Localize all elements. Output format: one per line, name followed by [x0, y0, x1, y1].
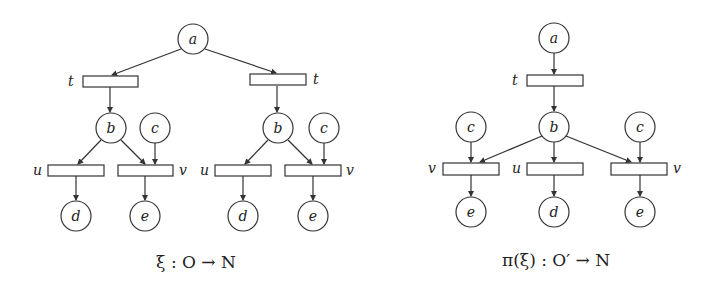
transition-u1 — [48, 165, 104, 176]
place-label: d — [550, 204, 559, 220]
place-label: e — [636, 204, 644, 220]
places-left: a b c b c d e d e — [61, 24, 339, 231]
transition-label: u — [200, 162, 209, 178]
place-label: e — [467, 204, 475, 220]
place-label: e — [309, 208, 317, 224]
arc-b1-u1 — [78, 140, 101, 164]
occurrence-net-left: t t u v u v a b c b c d e — [33, 24, 354, 272]
transition-v1 — [443, 163, 499, 175]
places-right: a c b c e d e — [456, 23, 655, 227]
occurrence-net-right: t v u v a c b c e d e π(ξ) : O′ → N — [428, 23, 681, 270]
caption-right: π(ξ) : O′ → N — [502, 250, 610, 270]
transition-label: t — [313, 71, 319, 87]
place-label: a — [189, 31, 197, 47]
place-label: c — [320, 120, 328, 136]
transition-label: u — [512, 160, 521, 176]
arc-b1-v1 — [121, 140, 145, 164]
arc-a-t1 — [112, 49, 181, 75]
arc-b-v2 — [566, 136, 631, 162]
transition-label: t — [68, 73, 74, 89]
place-label: d — [239, 208, 248, 224]
place-label: e — [141, 208, 149, 224]
place-label: a — [550, 30, 558, 46]
place-label: c — [636, 119, 644, 135]
transition-label: v — [673, 160, 681, 176]
place-label: d — [72, 208, 81, 224]
place-label: b — [274, 120, 283, 136]
arc-b2-u2 — [245, 140, 268, 164]
arc-b2-v2 — [288, 140, 312, 164]
transition-u — [527, 163, 583, 175]
transition-label: v — [428, 160, 436, 176]
transition-t — [527, 75, 583, 86]
transition-t2 — [250, 74, 306, 85]
arc-a-t2 — [205, 49, 276, 73]
petri-net-figure: t t u v u v a b c b c d e — [0, 0, 712, 291]
transition-u2 — [215, 165, 271, 176]
place-label: c — [467, 119, 475, 135]
transition-label: v — [346, 162, 354, 178]
arc-b-v1 — [480, 136, 542, 162]
transition-label: v — [179, 162, 187, 178]
transition-label: t — [512, 72, 518, 88]
transitions-left: t t u v u v — [33, 71, 354, 178]
place-label: b — [550, 119, 559, 135]
transition-v2 — [285, 165, 341, 176]
transition-label: u — [33, 162, 42, 178]
transition-t1 — [83, 76, 138, 87]
place-label: c — [151, 120, 159, 136]
transition-v1 — [118, 165, 173, 176]
transition-v2 — [611, 163, 667, 175]
caption-left: ξ : O → N — [156, 252, 236, 272]
place-label: b — [107, 120, 116, 136]
